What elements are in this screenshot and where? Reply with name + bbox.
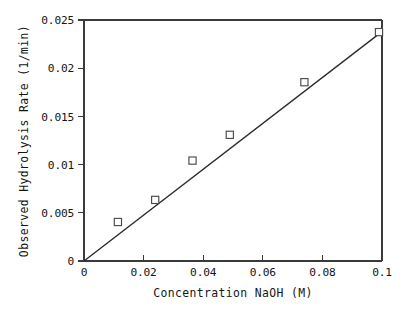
x-tick-label: 0.1 [372,266,392,279]
x-axis-title: Concentration NaOH (M) [153,286,313,300]
y-axis-title: Observed Hydrolysis Rate (1/min) [17,25,31,257]
x-tick-label: 0.04 [190,266,217,279]
data-point-marker [375,29,382,36]
data-point-marker [114,218,121,225]
y-tick-label: 0.025 [41,14,74,27]
y-tick-label: 0 [67,255,74,268]
y-tick-label: 0.005 [41,207,74,220]
data-point-marker [226,131,233,138]
x-tick-label: 0.02 [131,266,157,279]
x-tick-label: 0.06 [250,266,277,279]
data-point-marker [301,79,308,86]
y-tick-label: 0.015 [41,111,74,124]
hydrolysis-rate-scatter-chart: 0 0.02 0.04 0.06 0.08 0.1 0 0.005 0.01 0… [0,0,406,309]
y-tick-label: 0.02 [48,62,74,75]
chart-background [0,0,406,309]
y-tick-label: 0.01 [48,159,74,172]
x-tick-label: 0.08 [309,266,336,279]
x-tick-label: 0 [81,266,88,279]
data-point-marker [189,157,196,164]
data-point-marker [152,196,159,203]
